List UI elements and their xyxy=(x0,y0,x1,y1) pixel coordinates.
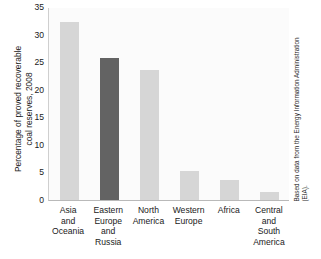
bar-chart: Percentage of proved recoverable coal re… xyxy=(0,0,321,259)
y-axis-tick-label: 35 xyxy=(34,3,44,12)
bar xyxy=(220,180,239,200)
plot-area xyxy=(48,8,289,201)
source-note: Based on data from the Energy Informatio… xyxy=(293,6,308,202)
x-axis-category-label: Eastern Europe and Russia xyxy=(88,205,128,247)
x-axis-category-label: Central and South America xyxy=(249,205,289,247)
bar xyxy=(60,22,79,200)
bar xyxy=(100,58,119,200)
bar xyxy=(260,192,279,200)
y-axis-tick-label: 15 xyxy=(34,113,44,122)
x-axis-category-label: North America xyxy=(128,205,168,226)
x-axis-category-label: Africa xyxy=(209,205,249,216)
y-axis-tick-label: 10 xyxy=(34,141,44,150)
x-axis-category-label: Asia and Oceania xyxy=(48,205,88,237)
bar-series xyxy=(49,8,289,200)
x-axis-category-label: Western Europe xyxy=(169,205,209,226)
bar xyxy=(180,171,199,200)
y-axis-tick-label: 20 xyxy=(34,86,44,95)
x-axis-category-labels: Asia and OceaniaEastern Europe and Russi… xyxy=(48,205,289,259)
y-axis-tick-label: 30 xyxy=(34,31,44,40)
y-axis-tick-label: 0 xyxy=(39,196,44,205)
y-axis-tick-label: 25 xyxy=(34,58,44,67)
y-axis-tick-labels: 05101520253035 xyxy=(22,0,44,259)
bar xyxy=(140,70,159,200)
y-axis-tick-label: 5 xyxy=(39,168,44,177)
